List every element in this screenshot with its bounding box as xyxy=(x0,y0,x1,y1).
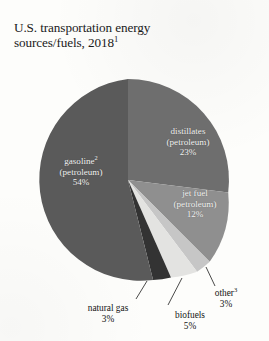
pie-chart: gasoline2 (petroleum) 54% distillates (p… xyxy=(0,0,269,341)
slice-label-natural-gas: natural gas 3% xyxy=(70,303,146,325)
slice-label-other-footnote-marker: 3 xyxy=(234,286,237,293)
slice-label-other: other3 3% xyxy=(198,288,254,310)
slice-label-natural-gas-value: 3% xyxy=(102,314,114,324)
slice-label-other-name: other xyxy=(215,288,234,298)
leader-line-natural-gas xyxy=(136,281,147,299)
slice-label-biofuels-name: biofuels xyxy=(175,310,205,320)
slice-label-biofuels: biofuels 5% xyxy=(160,310,220,332)
slice-label-natural-gas-name: natural gas xyxy=(88,303,129,313)
pie-slice-distillates[interactable] xyxy=(128,79,229,193)
slice-label-biofuels-value: 5% xyxy=(184,321,196,331)
leader-line-other xyxy=(206,267,215,286)
slice-label-other-value: 3% xyxy=(220,299,232,309)
leader-line-biofuels xyxy=(168,278,182,305)
